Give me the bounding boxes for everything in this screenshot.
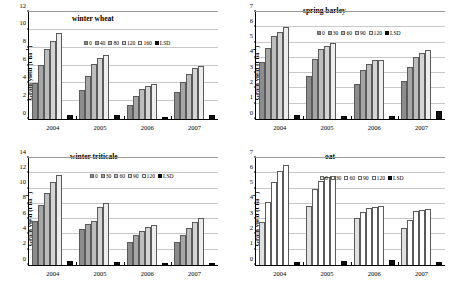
legend-item-0[interactable]: 0: [84, 40, 92, 46]
bar-groups: 2004200520062007: [256, 12, 445, 119]
legend-item-0[interactable]: 0: [90, 173, 98, 179]
bar-160: [198, 66, 204, 119]
legend-item-lsd[interactable]: LSD: [388, 175, 404, 181]
legend-item-40[interactable]: 40: [95, 40, 106, 46]
bar-120: [283, 165, 289, 265]
x-tick-label: 2004: [46, 124, 59, 131]
legend-swatch-80: [108, 41, 112, 45]
legend-oat: 0306090120LSD: [320, 175, 404, 181]
bar-group-2004: 2004: [29, 158, 76, 265]
y-tick-label: 10: [20, 179, 27, 186]
legend-item-120[interactable]: 120: [142, 173, 155, 179]
bar-lsd: [162, 263, 168, 265]
y-tick-label: 6: [23, 209, 26, 216]
legend-label: 80: [113, 40, 119, 46]
legend-swatch-lsd: [388, 176, 392, 180]
y-tick-label: 5: [250, 179, 253, 186]
legend-label: LSD: [160, 40, 171, 46]
bar-160: [103, 55, 109, 119]
bar-lsd: [294, 262, 300, 265]
legend-item-lsd[interactable]: LSD: [155, 40, 171, 46]
bar-120: [330, 43, 336, 119]
plot-area-spring-barley: 012345672004200520062007: [255, 12, 445, 120]
y-tick-label: 4: [250, 48, 253, 55]
x-tick-label: 2005: [320, 124, 333, 131]
legend-winter-wheat: 04080120160LSD: [84, 40, 170, 46]
legend-label: 160: [143, 40, 151, 46]
legend-swatch-0: [84, 41, 88, 45]
legend-item-90[interactable]: 90: [128, 173, 139, 179]
legend-label: LSD: [393, 175, 404, 181]
y-tick-label: 0: [23, 255, 26, 262]
y-tick-label: 0: [250, 255, 253, 262]
legend-item-30[interactable]: 30: [331, 175, 342, 181]
bar-lsd: [67, 261, 73, 265]
legend-item-120[interactable]: 120: [122, 40, 135, 46]
bar-lsd: [114, 115, 120, 119]
x-tick-label: 2004: [273, 270, 286, 277]
legend-label: 30: [336, 175, 342, 181]
legend-item-120[interactable]: 120: [369, 30, 382, 36]
bar-160: [151, 84, 157, 119]
legend-item-80[interactable]: 80: [108, 40, 119, 46]
bar-group-2007: 2007: [171, 12, 218, 119]
bar-group-2005: 2005: [303, 12, 350, 119]
legend-label: LSD: [390, 30, 401, 36]
y-tick-label: 7: [250, 2, 253, 9]
legend-label: 40: [100, 40, 106, 46]
y-tick-label: 3: [250, 63, 253, 70]
legend-item-0[interactable]: 0: [317, 30, 325, 36]
legend-item-0[interactable]: 0: [320, 175, 328, 181]
x-tick-label: 2007: [415, 124, 428, 131]
bar-lsd: [294, 115, 300, 119]
bar-120: [283, 27, 289, 119]
legend-item-lsd[interactable]: LSD: [385, 30, 401, 36]
bar-120: [378, 60, 384, 119]
x-tick-label: 2006: [368, 124, 381, 131]
legend-label: 120: [147, 173, 155, 179]
y-tick-label: 6: [250, 164, 253, 171]
legend-swatch-lsd: [155, 41, 159, 45]
legend-item-lsd[interactable]: LSD: [158, 173, 174, 179]
y-tick-label: 4: [23, 74, 26, 81]
bar-lsd: [436, 111, 442, 119]
legend-swatch-30: [101, 174, 105, 178]
legend-swatch-90: [355, 31, 359, 35]
legend-swatch-0: [90, 174, 94, 178]
bar-lsd: [162, 117, 168, 119]
x-tick-label: 2006: [141, 124, 154, 131]
bar-120: [56, 175, 62, 265]
legend-item-60[interactable]: 60: [341, 30, 352, 36]
bar-lsd: [209, 115, 215, 119]
legend-item-90[interactable]: 90: [355, 30, 366, 36]
legend-label: 60: [346, 30, 352, 36]
legend-item-30[interactable]: 30: [328, 30, 339, 36]
legend-swatch-60: [341, 31, 345, 35]
legend-label: 120: [127, 40, 135, 46]
legend-item-30[interactable]: 30: [101, 173, 112, 179]
y-tick-label: 6: [23, 56, 26, 63]
bar-lsd: [209, 263, 215, 265]
legend-item-90[interactable]: 90: [358, 175, 369, 181]
plot-area-winter-wheat: 0246810122004200520062007: [28, 12, 218, 120]
legend-swatch-40: [95, 41, 99, 45]
bar-group-2005: 2005: [76, 12, 123, 119]
y-tick-label: 7: [250, 148, 253, 155]
x-tick-label: 2007: [415, 270, 428, 277]
bar-120: [103, 203, 109, 265]
legend-spring-barley: 0306090120LSD: [317, 30, 401, 36]
legend-item-60[interactable]: 60: [344, 175, 355, 181]
x-tick-label: 2004: [273, 124, 286, 131]
legend-swatch-120: [122, 41, 126, 45]
y-tick-label: 6: [250, 18, 253, 25]
legend-item-120[interactable]: 120: [372, 175, 385, 181]
legend-label: 90: [363, 175, 369, 181]
x-tick-label: 2005: [320, 270, 333, 277]
legend-swatch-lsd: [158, 174, 162, 178]
y-tick-label: 2: [250, 225, 253, 232]
y-tick-label: 0: [23, 109, 26, 116]
legend-swatch-120: [142, 174, 146, 178]
legend-item-60[interactable]: 60: [114, 173, 125, 179]
legend-item-160[interactable]: 160: [138, 40, 151, 46]
legend-swatch-90: [358, 176, 362, 180]
